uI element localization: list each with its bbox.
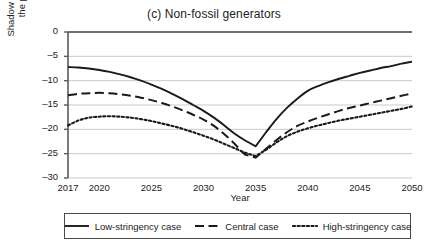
series-line-solid	[68, 62, 412, 147]
x-axis-title: Year	[68, 192, 412, 203]
legend-swatch-solid-icon	[64, 221, 90, 231]
legend-entry-0[interactable]: Low-stringency case	[64, 221, 182, 232]
legend-label-2: High-stringency case	[323, 221, 412, 232]
legend-entry-2[interactable]: High-stringency case	[292, 221, 412, 232]
chart-legend: Low-stringency caseCentral caseHigh-stri…	[64, 213, 411, 239]
series-line-dashed	[68, 93, 412, 158]
chart-figure: (c) Non-fossil generators Shadow tax as …	[0, 0, 428, 250]
legend-swatch-dotted-icon	[292, 221, 318, 231]
legend-label-0: Low-stringency case	[95, 221, 182, 232]
legend-entry-1[interactable]: Central case	[194, 221, 278, 232]
legend-swatch-dashed-icon	[194, 221, 220, 231]
series-line-dotted	[68, 106, 412, 156]
legend-label-1: Central case	[225, 221, 278, 232]
